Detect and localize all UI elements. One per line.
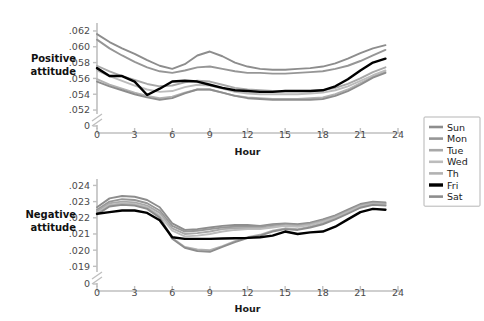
x-axis-title: Hour: [235, 303, 261, 314]
panel-top: .052.054.056.058.060.062003691215182124H…: [30, 23, 404, 157]
x-tick-label: 21: [354, 287, 366, 298]
legend-label-tue: Tue: [446, 145, 463, 156]
series-line-wed: [97, 203, 385, 236]
legend-label-sun: Sun: [447, 122, 465, 133]
panel-bottom: .019.020.021.022.023.024003691215182124H…: [25, 179, 404, 314]
y-axis-break-icon: [92, 272, 102, 284]
legend-label-sat: Sat: [447, 191, 463, 202]
x-tick-label: 24: [392, 287, 404, 298]
legend: SunMonTueWedThFriSat: [424, 117, 480, 206]
y-axis-title-line1: Positive: [31, 53, 76, 64]
x-tick-label: 0: [94, 129, 100, 140]
y-tick-label: .052: [69, 104, 90, 115]
y-tick-label: .060: [69, 41, 90, 52]
figure-root: .052.054.056.058.060.062003691215182124H…: [0, 0, 484, 321]
legend-label-th: Th: [446, 168, 459, 179]
x-tick-label: 15: [279, 287, 291, 298]
y-axis-title-line1: Negative: [25, 209, 76, 220]
x-tick-label: 6: [169, 287, 175, 298]
x-tick-label: 0: [94, 287, 100, 298]
x-tick-label: 12: [241, 287, 253, 298]
y-tick-label: .019: [69, 261, 90, 272]
x-tick-label: 3: [132, 287, 138, 298]
y-axis-break-icon: [92, 114, 102, 126]
x-tick-label: 18: [317, 287, 329, 298]
x-tick-label: 9: [207, 287, 213, 298]
y-axis-title-line2: attitude: [30, 222, 76, 233]
x-tick-label: 15: [279, 129, 291, 140]
x-axis-title: Hour: [235, 146, 261, 157]
x-tick-label: 18: [317, 129, 329, 140]
y-tick-label: .024: [69, 180, 90, 191]
y-tick-label-zero: 0: [84, 120, 90, 131]
y-tick-label: .020: [69, 245, 90, 256]
legend-label-mon: Mon: [447, 133, 467, 144]
x-tick-label: 6: [169, 129, 175, 140]
x-tick-label: 12: [241, 129, 253, 140]
y-tick-label: .054: [69, 89, 90, 100]
y-tick-label-zero: 0: [84, 278, 90, 289]
two-panel-line-chart: .052.054.056.058.060.062003691215182124H…: [0, 0, 484, 321]
x-tick-label: 3: [132, 129, 138, 140]
y-tick-label: .062: [69, 25, 90, 36]
x-tick-label: 21: [354, 129, 366, 140]
y-axis-title-line2: attitude: [30, 66, 76, 77]
x-tick-label: 24: [392, 129, 404, 140]
legend-label-fri: Fri: [447, 180, 458, 191]
legend-label-wed: Wed: [447, 156, 468, 167]
x-tick-label: 9: [207, 129, 213, 140]
y-tick-label: .023: [69, 196, 90, 207]
